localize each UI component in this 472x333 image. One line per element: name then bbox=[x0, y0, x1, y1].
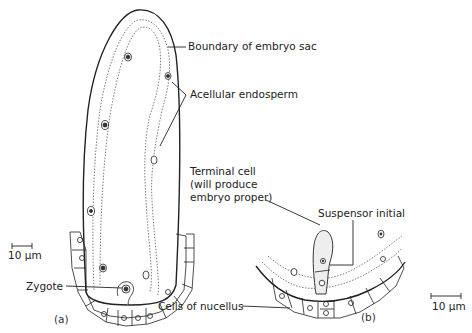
panel-label-a: (a) bbox=[54, 313, 69, 325]
label-suspensor-initial: Suspensor initial bbox=[318, 207, 405, 220]
panel-label-b: (b) bbox=[361, 311, 376, 323]
embryo-sac-a bbox=[83, 10, 180, 305]
label-acellular-endosperm: Acellular endosperm bbox=[190, 88, 298, 101]
nuclei-a bbox=[88, 53, 172, 305]
scale-bar-label-b: 10 μm bbox=[432, 300, 466, 313]
label-terminal-cell-line3: embryo proper) bbox=[190, 191, 272, 204]
label-cells-of-nucellus: Cells of nucellus bbox=[158, 300, 243, 313]
label-zygote: Zygote bbox=[26, 280, 63, 293]
label-terminal-cell-line2: (will produce bbox=[190, 178, 258, 191]
label-boundary-embryo-sac: Boundary of embryo sac bbox=[188, 40, 317, 53]
scale-bar-label-a: 10 μm bbox=[8, 249, 42, 262]
embryo-sac-b bbox=[256, 230, 405, 301]
label-terminal-cell-line1: Terminal cell bbox=[190, 165, 256, 178]
